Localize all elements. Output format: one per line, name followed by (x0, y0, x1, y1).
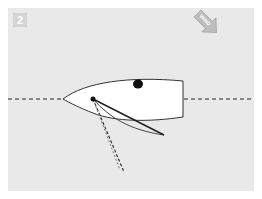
crew-dot (133, 80, 143, 89)
mast-dot (91, 97, 96, 102)
wind-arrow-icon: WIND (190, 6, 223, 39)
sailing-diagram: WIND (0, 0, 262, 199)
